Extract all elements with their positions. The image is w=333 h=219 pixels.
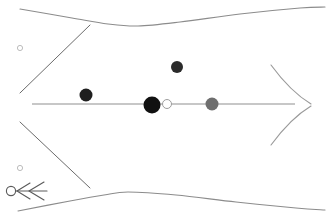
upper-wall-curve <box>20 7 325 26</box>
particle-2-marker <box>171 61 183 73</box>
upper-oblique-shock-line <box>20 25 90 93</box>
figure-canvas: Axisymmetric flow field schematic <box>0 0 333 219</box>
flow-arrow-circle-icon <box>6 186 15 195</box>
figure-svg <box>0 0 333 219</box>
particle-5-marker <box>206 98 219 111</box>
particle-1-marker <box>80 89 93 102</box>
lower-tail-curve <box>271 106 311 145</box>
lower-oblique-shock-line <box>20 122 90 188</box>
upper-tail-curve <box>271 65 311 104</box>
particle-4-marker <box>163 100 172 109</box>
lower-wall-curve <box>18 192 325 211</box>
reference-marker-upper-icon <box>17 45 22 50</box>
particle-3-marker <box>144 97 161 114</box>
reference-marker-lower-icon <box>17 165 22 170</box>
flow-direction-arrow <box>6 182 47 200</box>
